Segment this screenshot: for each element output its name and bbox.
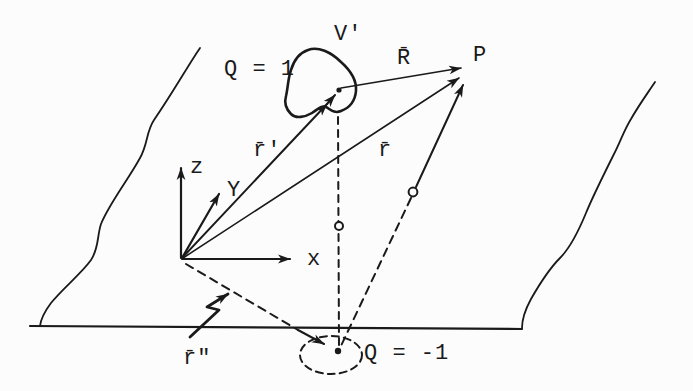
source-charge-dot — [336, 87, 341, 92]
vector-r-label: r̄ — [378, 138, 392, 163]
left-boundary-curve — [40, 48, 200, 326]
vector-R-arrow — [341, 68, 461, 88]
vector-r-prime-arrow-tip — [327, 95, 335, 104]
crossing-marker-circle-vertical — [335, 222, 343, 230]
perpendicular-dashed-line — [338, 117, 339, 347]
vector-r-prime-label: r̄' — [253, 138, 281, 163]
image-charge-diagram: V' Q = 1 R̄ P r̄' r̄ z Y x r̄" Q = -1 — [0, 0, 693, 391]
image-charge-dashed-circle — [300, 336, 362, 374]
y-axis-label: Y — [227, 178, 241, 203]
right-boundary-curve — [522, 82, 655, 328]
volume-label: V' — [334, 22, 362, 47]
image-to-P-solid-arrow — [416, 85, 463, 187]
diagram-canvas: V' Q = 1 R̄ P r̄' r̄ z Y x r̄" Q = -1 — [0, 0, 693, 391]
r-double-prime-zigzag-arrow — [190, 294, 228, 337]
vector-r-double-prime-label: r̄" — [183, 346, 211, 371]
image-charge-label: Q = -1 — [364, 341, 449, 366]
x-axis-label: x — [307, 247, 321, 272]
vector-r-prime-arrow — [182, 104, 327, 258]
crossing-marker-circle-image-ray — [409, 188, 418, 197]
point-P-label: P — [473, 43, 487, 68]
ground-plane-line — [30, 326, 522, 329]
image-to-P-dashed-line — [340, 198, 411, 348]
vector-R-label: R̄ — [397, 46, 411, 71]
source-charge-label: Q = 1 — [224, 57, 295, 82]
image-charge-dot — [335, 348, 341, 354]
volume-outline — [285, 49, 356, 117]
vector-r-arrow — [183, 78, 459, 258]
z-axis-label: z — [190, 155, 204, 180]
origin-to-image-dashed-line — [186, 264, 298, 330]
